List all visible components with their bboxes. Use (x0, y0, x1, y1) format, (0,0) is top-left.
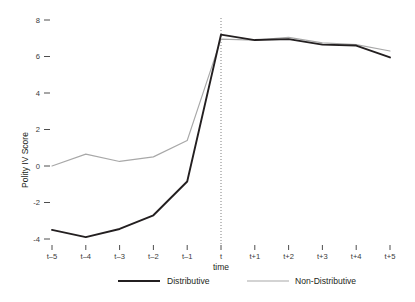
y-axis-tick-label: 0 (36, 162, 40, 171)
x-axis-tick-label: t–4 (81, 252, 92, 261)
figure-container: 86420-2-4 t–5t–4t–3t–2t–1tt+1t+2t+3t+4t+… (0, 0, 415, 302)
x-axis-tick-label: t+1 (249, 252, 260, 261)
x-axis-tick-label: t+3 (317, 252, 328, 261)
x-axis-tick-label: t+5 (385, 252, 396, 261)
y-axis-tick-label: -4 (33, 235, 40, 244)
x-axis-tick-label: t+4 (351, 252, 362, 261)
y-axis-tick-label: 2 (36, 125, 40, 134)
y-axis-tick-label: 8 (36, 16, 40, 25)
x-axis-tick-label: t–1 (182, 252, 193, 261)
x-axis-tick-label: t–2 (148, 252, 159, 261)
x-axis-tick-label: t–5 (47, 252, 58, 261)
y-axis-tick-label: 4 (36, 89, 40, 98)
x-axis-tick-label: t–3 (114, 252, 125, 261)
y-axis-tick-label: -2 (33, 198, 40, 207)
y-axis-tick-label: 6 (36, 52, 40, 61)
y-axis-title: Polity IV Score (20, 132, 30, 188)
x-axis-tick-label: t+2 (283, 252, 294, 261)
polity-score-line-chart: 86420-2-4 t–5t–4t–3t–2t–1tt+1t+2t+3t+4t+… (0, 0, 415, 302)
legend-label: Distributive (167, 276, 210, 286)
legend-label: Non-Distributive (295, 276, 356, 286)
x-axis-title: time (213, 262, 229, 272)
